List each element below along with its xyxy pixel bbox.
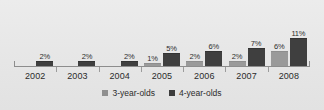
bar-column: 1% [144, 18, 161, 67]
bar-group: 1%5% [141, 18, 183, 67]
x-axis-tick [141, 67, 142, 72]
x-axis-tick-label: 2003 [56, 70, 98, 83]
bar-group-bars: 6%11% [268, 18, 310, 67]
bar [163, 53, 180, 67]
bar-value-label: 2% [124, 53, 134, 61]
x-axis-labels: 2002200320042005200620072008 [14, 70, 310, 84]
bar-group-bars: 2%6% [183, 18, 225, 67]
bar-value-label: 2% [39, 53, 49, 61]
x-axis-left-cap [14, 61, 15, 67]
bar-value-label: 6% [209, 43, 219, 51]
bar-column: 2% [78, 18, 95, 67]
x-axis-tick-label: 2005 [141, 70, 183, 83]
bar-group: 2% [56, 18, 98, 67]
bar-value-label: 2% [232, 53, 242, 61]
bar-value-label: 7% [251, 40, 261, 48]
bar-group-bars: 2% [14, 18, 56, 67]
legend-item-3-year-olds: 3-year-olds [102, 88, 155, 98]
bar-column: 5% [163, 18, 180, 67]
x-axis-tick [268, 67, 269, 72]
x-axis-right-cap [309, 61, 310, 67]
bar [290, 38, 307, 67]
bar-group-bars: 2% [56, 18, 98, 67]
bar-column: 2% [186, 18, 203, 67]
bar [248, 48, 265, 67]
bar-column: 2% [121, 18, 138, 67]
bar-group: 2%7% [225, 18, 267, 67]
legend-swatch-icon [169, 90, 175, 96]
bar [205, 51, 222, 67]
bar-column: 2% [36, 18, 53, 67]
bar-column: 6% [271, 18, 288, 67]
legend-swatch-icon [102, 90, 108, 96]
x-axis-tick [183, 67, 184, 72]
bar-group: 6%11% [268, 18, 310, 67]
x-axis-tick-label: 2007 [225, 70, 267, 83]
x-axis-tick [56, 67, 57, 72]
bar-value-label: 5% [166, 45, 176, 53]
legend-label: 4-year-olds [179, 88, 222, 98]
x-axis-tick-label: 2002 [14, 70, 56, 83]
bar-value-label: 11% [291, 30, 305, 38]
bar-chart: 2%2%2%1%5%2%6%2%7%6%11% 2002200320042005… [0, 0, 324, 110]
bar-group: 2% [99, 18, 141, 67]
x-axis-tick [99, 67, 100, 72]
bar-group-bars: 2% [99, 18, 141, 67]
x-axis-tick-label: 2006 [183, 70, 225, 83]
bar-column: 2% [229, 18, 246, 67]
x-axis-tick-label: 2008 [268, 70, 310, 83]
x-axis-line [14, 66, 310, 67]
bar-column: 6% [205, 18, 222, 67]
bar [271, 51, 288, 67]
x-axis-tick-label: 2004 [99, 70, 141, 83]
bar-value-label: 2% [190, 53, 200, 61]
bar-column: 11% [290, 18, 307, 67]
bar-column [59, 18, 76, 67]
bar-group-bars: 2%7% [225, 18, 267, 67]
bar-group: 2%6% [183, 18, 225, 67]
x-axis-tick [225, 67, 226, 72]
chart-legend: 3-year-olds 4-year-olds [0, 88, 324, 98]
legend-label: 3-year-olds [112, 88, 155, 98]
bar-column [17, 18, 34, 67]
bar-column [102, 18, 119, 67]
bar-value-label: 6% [274, 43, 284, 51]
plot-area: 2%2%2%1%5%2%6%2%7%6%11% [14, 18, 310, 67]
bar-group-bars: 1%5% [141, 18, 183, 67]
bar-value-label: 2% [82, 53, 92, 61]
legend-item-4-year-olds: 4-year-olds [169, 88, 222, 98]
bar-value-label: 1% [147, 55, 157, 63]
bar-group: 2% [14, 18, 56, 67]
bar-column: 7% [248, 18, 265, 67]
